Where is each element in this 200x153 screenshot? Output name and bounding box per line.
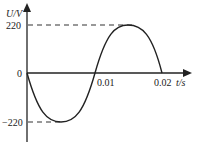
voltage-time-chart: U/V 220 0 −220 0.01 0.02 t/s bbox=[0, 0, 200, 153]
x-tick-0.01: 0.01 bbox=[97, 77, 115, 88]
x-axis-label: t/s bbox=[176, 77, 186, 88]
y-axis-arrow-icon bbox=[23, 3, 31, 12]
y-tick-220: 220 bbox=[6, 20, 21, 31]
y-axis-label: U/V bbox=[6, 8, 24, 19]
x-tick-0.02: 0.02 bbox=[154, 77, 172, 88]
x-axis-arrow-icon bbox=[183, 69, 192, 77]
y-tick-0: 0 bbox=[17, 68, 22, 79]
y-tick-neg220: −220 bbox=[2, 117, 23, 128]
